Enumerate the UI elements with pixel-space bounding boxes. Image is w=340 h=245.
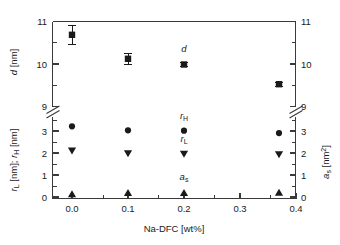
marker-triangle-down-rL-1 bbox=[124, 150, 132, 157]
ytick-label-right-9: 9 bbox=[301, 101, 306, 112]
ytick-label-left-1: 1 bbox=[42, 170, 47, 181]
data-point-d-2 bbox=[180, 61, 188, 67]
data-point-d-1 bbox=[124, 53, 132, 64]
marker-square-d-1 bbox=[125, 56, 131, 62]
svg-text:rL [nm]; rH [nm]: rL [nm]; rH [nm] bbox=[8, 129, 20, 192]
right-ticks-upper bbox=[290, 22, 296, 107]
annotation-as: as bbox=[180, 171, 189, 183]
xtick-label-04: 0.4 bbox=[289, 203, 302, 214]
ytick-label-left-0: 0 bbox=[42, 192, 47, 203]
marker-circle-rH-0 bbox=[69, 123, 75, 129]
marker-triangle-down-rL-0 bbox=[68, 148, 76, 155]
x-tick-labels: 0.0 0.1 0.2 0.3 0.4 bbox=[65, 203, 302, 214]
ytick-label-right-1: 1 bbox=[301, 170, 306, 181]
ytick-label-right-10: 10 bbox=[301, 59, 312, 70]
annotation-rH-sub: H bbox=[183, 115, 188, 122]
annotation-rH: rH bbox=[180, 110, 188, 122]
marker-triangle-down-rL-3 bbox=[275, 151, 283, 158]
y-axis-label-upper-left: d [nm] bbox=[8, 49, 19, 75]
svg-text:d [nm]: d [nm] bbox=[8, 49, 19, 75]
ytick-label-left-10: 10 bbox=[36, 59, 47, 70]
axis-break-left bbox=[47, 106, 60, 118]
left-ticks-upper bbox=[53, 22, 59, 107]
ytick-label-right-3: 3 bbox=[301, 126, 306, 137]
ytick-label-left-11: 11 bbox=[37, 16, 47, 27]
marker-square-d-0 bbox=[69, 32, 75, 38]
y-upper-left-unit: [nm] bbox=[8, 49, 19, 67]
axis-frame bbox=[53, 22, 296, 199]
series-d bbox=[68, 25, 283, 87]
y-lower-left-mid: [nm]; bbox=[8, 158, 19, 182]
marker-triangle-up-as-0 bbox=[68, 190, 76, 197]
ytick-label-left-9: 9 bbox=[42, 101, 47, 112]
marker-circle-rH-1 bbox=[125, 127, 131, 133]
annotation-d: d bbox=[181, 43, 187, 54]
marker-triangle-up-as-1 bbox=[124, 189, 132, 196]
y-axis-label-lower-right: as [nm2] bbox=[320, 145, 332, 179]
scatter-plot: 11 10 9 3 2 1 0 11 10 9 3 2 1 0 0.0 0.1 … bbox=[0, 0, 340, 245]
y-lower-right-unit: [nm bbox=[320, 152, 331, 168]
marker-circle-rH-3 bbox=[276, 130, 282, 136]
data-point-d-0 bbox=[68, 25, 76, 44]
data-point-d-3 bbox=[275, 81, 283, 87]
y-axis-label-lower-left: rL [nm]; rH [nm] bbox=[8, 129, 20, 192]
right-ticks-lower bbox=[290, 120, 296, 197]
annotation-rL: rL bbox=[180, 133, 187, 145]
series-rH bbox=[69, 123, 282, 136]
svg-text:as [nm2]: as [nm2] bbox=[320, 145, 332, 179]
series-as bbox=[68, 189, 283, 198]
left-ticks-lower bbox=[53, 120, 59, 197]
xtick-label-01: 0.1 bbox=[121, 203, 134, 214]
right-tick-labels: 11 10 9 3 2 1 0 bbox=[301, 16, 312, 203]
marker-triangle-up-as-3 bbox=[275, 189, 283, 196]
y-lower-right-close: ] bbox=[320, 145, 331, 148]
xtick-label-03: 0.3 bbox=[233, 203, 246, 214]
xtick-label-00: 0.0 bbox=[65, 203, 78, 214]
x-axis-label: Na-DFC [wt%] bbox=[144, 223, 205, 234]
ytick-label-right-11: 11 bbox=[301, 16, 311, 27]
marker-square-d-3 bbox=[276, 81, 282, 87]
xtick-label-02: 0.2 bbox=[177, 203, 190, 214]
marker-square-d-2 bbox=[181, 61, 187, 67]
axis-break-marks bbox=[47, 106, 303, 118]
marker-triangle-down-rL-2 bbox=[180, 151, 188, 158]
series-rL bbox=[68, 148, 283, 159]
marker-triangle-up-as-2 bbox=[180, 189, 188, 196]
ytick-label-right-2: 2 bbox=[301, 148, 306, 159]
figure-container: 11 10 9 3 2 1 0 11 10 9 3 2 1 0 0.0 0.1 … bbox=[0, 0, 340, 245]
annotation-as-sub: s bbox=[185, 176, 189, 183]
ytick-label-left-3: 3 bbox=[42, 126, 47, 137]
ytick-label-right-0: 0 bbox=[301, 192, 306, 203]
y-lower-left-unit: [nm] bbox=[8, 129, 19, 147]
left-tick-labels: 11 10 9 3 2 1 0 bbox=[36, 16, 47, 203]
annotation-rL-sub: L bbox=[184, 138, 188, 145]
ytick-label-left-2: 2 bbox=[42, 148, 47, 159]
